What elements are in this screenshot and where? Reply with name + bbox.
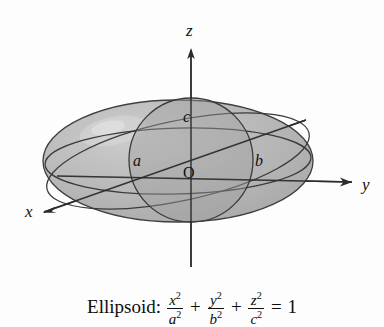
semi-axis-label-b: b bbox=[255, 153, 263, 169]
semi-axis-label-c: c bbox=[183, 109, 190, 125]
equation-term-1: x2 a2 bbox=[167, 290, 184, 327]
equals-operator: = bbox=[270, 296, 283, 317]
term-1-numerator-var: x bbox=[169, 292, 176, 308]
equation-rhs: 1 bbox=[287, 296, 297, 317]
equation-term-2: y2 b2 bbox=[208, 290, 225, 327]
term-2-numerator-exp: 2 bbox=[217, 290, 222, 301]
x-axis-label: x bbox=[25, 203, 33, 220]
plus-operator-1: + bbox=[189, 296, 202, 317]
term-1-numerator-exp: 2 bbox=[176, 290, 181, 301]
term-3-numerator-exp: 2 bbox=[257, 290, 262, 301]
term-2-denominator-var: b bbox=[210, 311, 218, 327]
z-axis-label: z bbox=[186, 22, 193, 39]
caption-name: Ellipsoid: bbox=[87, 296, 161, 317]
term-2-denominator-exp: 2 bbox=[217, 309, 222, 320]
caption: Ellipsoid: x2 a2 + y2 b2 + z2 c2 = 1 bbox=[0, 288, 384, 325]
term-3-denominator-exp: 2 bbox=[257, 309, 262, 320]
term-1-denominator-exp: 2 bbox=[176, 309, 181, 320]
x-axis-arrow-icon bbox=[43, 207, 57, 213]
equation-term-3: z2 c2 bbox=[248, 290, 264, 327]
semi-axis-label-a: a bbox=[133, 153, 141, 169]
y-axis-label: y bbox=[362, 176, 370, 193]
figure-page: z y x c a b O Ellipsoid: x2 a2 + y2 b2 +… bbox=[0, 0, 384, 327]
term-2-numerator-var: y bbox=[210, 292, 217, 308]
origin-label: O bbox=[183, 165, 195, 181]
plus-operator-2: + bbox=[230, 296, 243, 317]
